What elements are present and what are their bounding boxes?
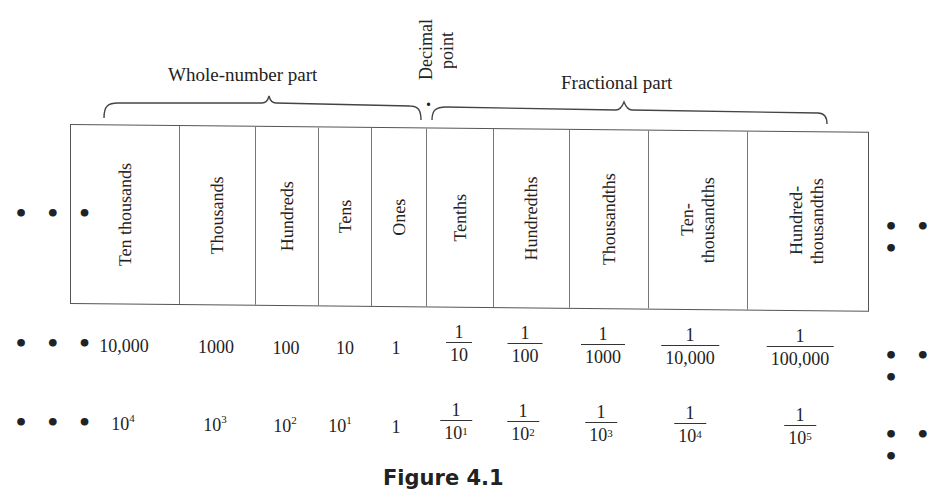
numerator: 1 bbox=[581, 324, 625, 344]
power-thousandths: 1 103 bbox=[585, 402, 617, 445]
column-hundreds: Hundreds bbox=[255, 127, 319, 306]
power-base: 10 bbox=[444, 423, 462, 443]
value-hundredths: 1 100 bbox=[508, 323, 543, 366]
power-base: 10 bbox=[788, 428, 806, 448]
power-exponent: 4 bbox=[696, 428, 702, 440]
value-thousandths: 1 1000 bbox=[581, 324, 625, 367]
power-base: 10 bbox=[203, 415, 221, 435]
power-exponent: 4 bbox=[129, 412, 135, 424]
power-hundred-thousandths: 1 105 bbox=[784, 405, 816, 448]
denominator: 100,000 bbox=[767, 346, 834, 369]
value-ten-thousandths: 1 10,000 bbox=[661, 325, 719, 368]
decimal-point-label: Decimal point bbox=[416, 2, 458, 98]
column-label-line2: thousandths bbox=[807, 178, 827, 264]
power-base: 10 bbox=[511, 424, 529, 444]
column-ten-thousandths: Ten- thousandths bbox=[648, 131, 748, 310]
column-label: Ten thousands bbox=[115, 163, 136, 266]
column-hundredths: Hundredths bbox=[493, 129, 570, 308]
value-ones: 1 bbox=[392, 338, 401, 359]
power-base: 10 bbox=[678, 426, 696, 446]
power-base: 10 bbox=[273, 416, 291, 436]
column-label-line1: Ten- bbox=[677, 203, 697, 236]
whole-number-part-label: Whole-number part bbox=[168, 64, 317, 86]
decimal-label-line1: Decimal bbox=[416, 20, 436, 81]
value-thousands: 1000 bbox=[198, 337, 234, 358]
power-exponent: 1 bbox=[462, 425, 468, 437]
fractional-part-label: Fractional part bbox=[561, 72, 672, 94]
column-thousands: Thousands bbox=[179, 126, 256, 305]
denominator: 102 bbox=[507, 421, 539, 444]
value-ten-thousands: 10,000 bbox=[99, 336, 149, 357]
numerator: 1 bbox=[440, 400, 472, 420]
ellipsis-right-powers: • • • bbox=[884, 424, 949, 468]
denominator: 10,000 bbox=[661, 345, 719, 368]
power-hundredths: 1 102 bbox=[507, 401, 539, 444]
value-tens: 10 bbox=[336, 338, 354, 359]
column-label: Thousandths bbox=[598, 173, 619, 265]
power-exponent: 3 bbox=[607, 427, 613, 439]
numerator: 1 bbox=[508, 323, 543, 343]
power-base: 10 bbox=[328, 416, 346, 436]
column-ten-thousands: Ten thousands bbox=[71, 125, 180, 304]
column-label: Ten- thousandths bbox=[677, 177, 719, 263]
power-thousands: 103 bbox=[203, 415, 227, 436]
power-base: 10 bbox=[111, 414, 129, 434]
power-exponent: 1 bbox=[346, 414, 352, 426]
power-exponent: 2 bbox=[529, 426, 535, 438]
place-value-table: Ten thousands Thousands Hundreds Tens On… bbox=[70, 124, 869, 312]
denominator: 1000 bbox=[581, 344, 625, 367]
column-hundred-thousandths: Hundred- thousandths bbox=[747, 131, 867, 310]
value-tenths: 1 10 bbox=[446, 322, 472, 365]
denominator: 104 bbox=[674, 423, 706, 446]
value-hundred-thousandths: 1 100,000 bbox=[767, 326, 834, 369]
denominator: 101 bbox=[440, 420, 472, 443]
column-label: Ones bbox=[388, 199, 409, 236]
figure-caption: Figure 4.1 bbox=[383, 466, 504, 490]
denominator: 100 bbox=[508, 343, 543, 366]
ellipsis-right-values: • • • bbox=[884, 345, 949, 389]
numerator: 1 bbox=[446, 322, 472, 342]
ellipsis-left-values: • • • bbox=[14, 333, 97, 355]
ellipsis-left-powers: • • • bbox=[14, 412, 97, 434]
column-label-line2: thousandths bbox=[698, 177, 718, 263]
power-exponent: 5 bbox=[806, 430, 812, 442]
braces-graphic bbox=[0, 0, 949, 130]
numerator: 1 bbox=[585, 402, 617, 422]
power-ones: 1 bbox=[392, 417, 401, 438]
denominator: 10 bbox=[446, 342, 472, 365]
column-ones: Ones bbox=[371, 128, 427, 307]
column-label: Tenths bbox=[449, 194, 470, 242]
power-base: 10 bbox=[589, 425, 607, 445]
numerator: 1 bbox=[784, 405, 816, 425]
numerator: 1 bbox=[674, 403, 706, 423]
column-label: Thousands bbox=[207, 176, 228, 254]
power-ten-thousandths: 1 104 bbox=[674, 403, 706, 446]
power-exponent: 2 bbox=[291, 414, 297, 426]
column-tens: Tens bbox=[318, 127, 372, 306]
column-thousandths: Thousandths bbox=[569, 130, 649, 309]
denominator: 103 bbox=[585, 422, 617, 445]
numerator: 1 bbox=[507, 401, 539, 421]
column-label-line1: Hundred- bbox=[786, 186, 806, 255]
power-ten-thousands: 104 bbox=[111, 414, 135, 435]
denominator: 105 bbox=[784, 425, 816, 448]
numerator: 1 bbox=[767, 326, 834, 346]
decimal-label-line2: point bbox=[437, 32, 457, 69]
power-hundreds: 102 bbox=[273, 416, 297, 437]
power-exponent: 3 bbox=[221, 413, 227, 425]
column-label: Hundredths bbox=[521, 176, 542, 260]
column-label: Hundred- thousandths bbox=[786, 178, 828, 264]
numerator: 1 bbox=[661, 325, 719, 345]
power-tenths: 1 101 bbox=[440, 400, 472, 443]
column-tenths: Tenths bbox=[426, 128, 494, 307]
value-hundreds: 100 bbox=[273, 338, 300, 359]
ellipsis-right-table: • • • bbox=[884, 216, 949, 260]
column-label: Tens bbox=[334, 200, 355, 234]
column-label: Hundreds bbox=[276, 181, 297, 251]
power-tens: 101 bbox=[328, 416, 352, 437]
